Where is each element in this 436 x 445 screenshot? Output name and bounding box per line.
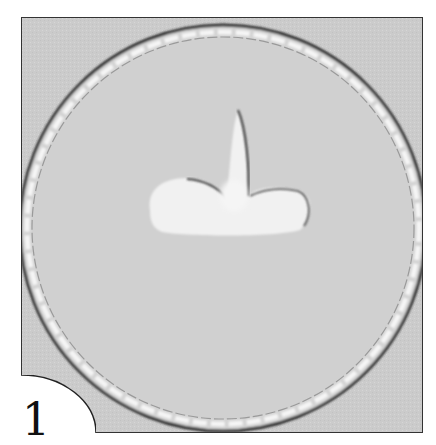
photo-frame (21, 17, 423, 433)
step-number-label: 1 (22, 398, 50, 442)
cake-board-illustration (22, 18, 423, 433)
